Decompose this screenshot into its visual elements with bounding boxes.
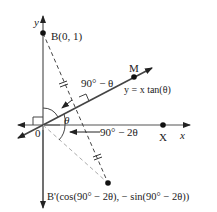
dashed-segment-o-bprime <box>43 125 108 183</box>
origin-label: 0 <box>35 127 41 139</box>
point-b-prime <box>105 180 111 186</box>
diagram-canvas: y x 0 B(0, 1) M X y = x tan(θ) θ 90° − θ… <box>0 0 217 212</box>
y-axis-label: y <box>33 16 39 28</box>
angle-lower-label: 90° − 2θ <box>100 126 138 138</box>
angle-arc-lower <box>59 125 65 140</box>
point-x-label: X <box>159 131 167 143</box>
angle-arc-upper <box>43 108 58 117</box>
right-angle-marker-foot <box>79 94 89 101</box>
point-b-label: B(0, 1) <box>51 30 83 43</box>
point-x <box>160 122 166 128</box>
point-m-label: M <box>129 62 139 74</box>
point-b-prime-label: B'(cos(90° − 2θ), − sin(90° − 2θ)) <box>47 191 190 203</box>
right-angle-marker-origin <box>33 117 43 125</box>
point-m <box>131 74 137 80</box>
point-b <box>40 30 46 36</box>
line-equation-label: y = x tan(θ) <box>124 84 171 96</box>
angle-upper-label: 90° − θ <box>81 77 113 89</box>
angle-theta-label: θ <box>64 114 70 126</box>
x-axis-label: x <box>179 129 185 141</box>
